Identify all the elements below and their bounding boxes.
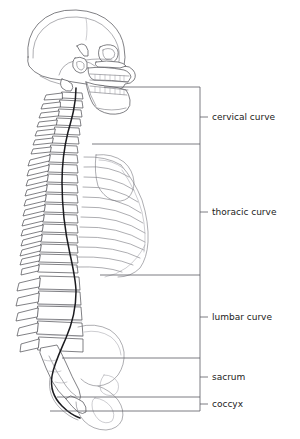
obturator-foramen (92, 398, 114, 423)
lumbar-vertebra-l4 (37, 321, 83, 336)
spine-curvature-diagram: cervical curve thoracic curve lumbar cur… (0, 0, 300, 439)
rib-10 (78, 247, 140, 258)
label-coccyx: coccyx (212, 399, 244, 409)
rib-2 (84, 167, 129, 177)
cervical-vertebra-c3 (58, 109, 82, 117)
costal-cartilage-margin (105, 245, 145, 277)
thoracic-vertebrae-group (20, 154, 78, 275)
region-labels: cervical curve thoracic curve lumbar cur… (212, 112, 277, 409)
cervical-vertebra-c2 (60, 100, 83, 108)
rib-6 (82, 207, 143, 223)
label-sacrum: sacrum (212, 372, 245, 382)
rib-9 (79, 237, 144, 250)
rib-12 (76, 267, 122, 272)
orbit (99, 45, 119, 63)
rib-8 (80, 227, 145, 242)
sacrum (40, 345, 81, 403)
label-lumbar-curve: lumbar curve (212, 312, 272, 322)
lumbar-vertebra-l1 (39, 276, 80, 290)
rib-5 (83, 197, 141, 213)
label-thoracic-curve: thoracic curve (212, 207, 277, 217)
rib-7 (81, 217, 145, 233)
ilium-outline (78, 325, 124, 386)
cervical-vertebra-c1 (62, 92, 83, 99)
lumbar-vertebra-l2 (38, 291, 81, 305)
rib-3 (84, 177, 134, 190)
rib-cage-group (76, 155, 148, 277)
lumbar-spinous-processes (16, 278, 40, 352)
rib-11 (77, 257, 133, 265)
nasal-aperture (73, 57, 88, 73)
label-cervical-curve: cervical curve (212, 112, 276, 122)
cervical-vertebra-c4 (56, 118, 81, 126)
